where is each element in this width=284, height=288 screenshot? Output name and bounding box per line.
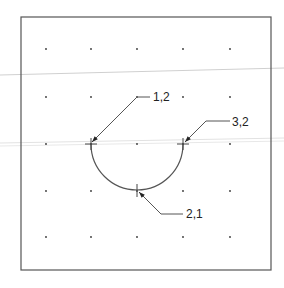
grid-dot (136, 236, 138, 238)
callout-1-2: 1,2 (92, 90, 170, 142)
diagram-canvas: 1,23,22,1 (0, 0, 284, 288)
point-markers (85, 138, 189, 197)
grid-dot (182, 48, 184, 50)
scan-artifact-line (0, 68, 284, 75)
grid-dot (229, 48, 231, 50)
grid-dot (229, 96, 231, 98)
grid-dot (136, 48, 138, 50)
semicircle-arc (91, 144, 183, 190)
leader-line (92, 97, 150, 142)
coordinate-label: 1,2 (153, 90, 170, 104)
grid-dot (45, 48, 47, 50)
grid-dot (90, 96, 92, 98)
leader-line (139, 192, 183, 214)
grid-dot (182, 236, 184, 238)
grid-dot (229, 143, 231, 145)
grid-dot (182, 190, 184, 192)
grid-dot (90, 190, 92, 192)
grid-dot (90, 48, 92, 50)
grid-dots (45, 48, 231, 238)
grid-dot (136, 143, 138, 145)
callout-3-2: 3,2 (185, 115, 249, 142)
grid-dot (45, 143, 47, 145)
callouts: 1,23,22,1 (92, 90, 249, 221)
grid-dot (45, 96, 47, 98)
callout-2-1: 2,1 (139, 192, 203, 221)
grid-dot (45, 236, 47, 238)
grid-dot (90, 236, 92, 238)
grid-dot (45, 190, 47, 192)
coordinate-label: 2,1 (186, 207, 203, 221)
coordinate-label: 3,2 (232, 115, 249, 129)
grid-dot (229, 236, 231, 238)
grid-dot (229, 190, 231, 192)
grid-dot (182, 96, 184, 98)
